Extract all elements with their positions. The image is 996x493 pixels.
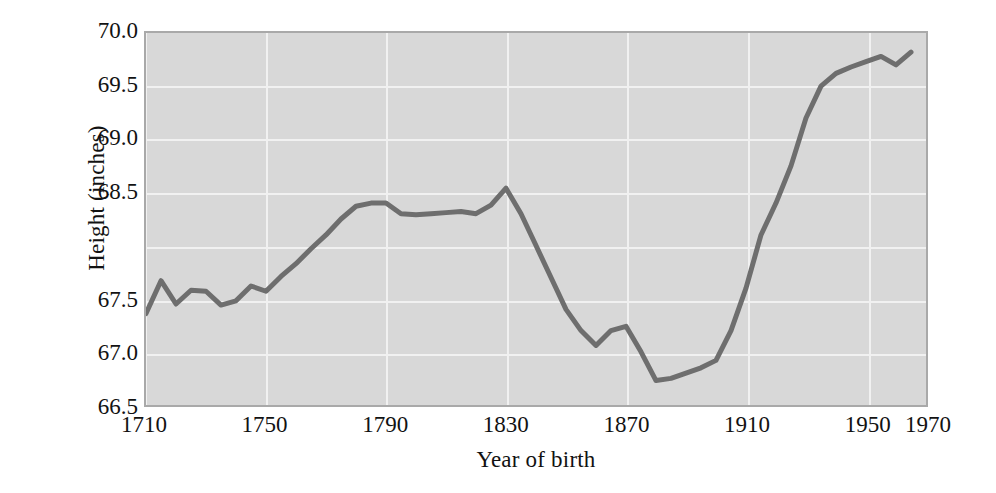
x-tick-label: 1870 — [571, 412, 681, 438]
y-tick-label: 68.5 — [52, 180, 138, 203]
x-tick-label: 1790 — [330, 412, 440, 438]
x-tick-label: 1910 — [692, 412, 802, 438]
x-tick-label: 1830 — [451, 412, 561, 438]
x-tick-label: 1750 — [210, 412, 320, 438]
y-tick-label: 69.5 — [52, 73, 138, 96]
x-axis-title: Year of birth — [144, 447, 928, 473]
y-tick-label: 69.0 — [52, 126, 138, 149]
x-tick-label: 1710 — [89, 412, 199, 438]
x-tick-label: 1970 — [873, 412, 983, 438]
y-tick-label: 67.5 — [52, 288, 138, 311]
y-tick-label: 67.0 — [52, 341, 138, 364]
y-tick-label: 70.0 — [52, 19, 138, 42]
plot-area — [144, 31, 928, 407]
chart-figure: Height (inches) 70.069.569.068.567.567.0… — [0, 0, 996, 493]
line-series — [146, 33, 926, 405]
